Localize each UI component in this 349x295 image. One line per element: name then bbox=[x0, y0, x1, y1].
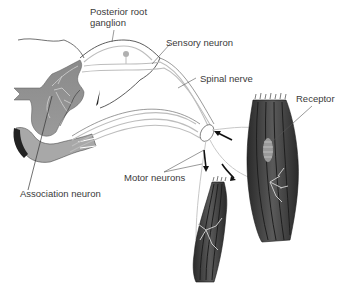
label-spinal-nerve: Spinal nerve bbox=[200, 73, 253, 84]
spinal-nerve bbox=[70, 58, 270, 240]
leader-posterior-root-ganglion bbox=[112, 30, 114, 42]
arrow-icon bbox=[222, 164, 234, 178]
ganglion-cell-body bbox=[123, 51, 129, 57]
arrow-icon bbox=[203, 166, 209, 172]
label-line: Posterior root bbox=[90, 6, 147, 17]
reflex-arc-diagram: Posterior root ganglion Sensory neuron S… bbox=[0, 0, 349, 295]
muscle-right bbox=[247, 93, 298, 242]
label-receptor: Receptor bbox=[296, 93, 335, 104]
nerve-cross-section bbox=[197, 122, 216, 144]
label-sensory-neuron: Sensory neuron bbox=[166, 37, 233, 48]
label-line: ganglion bbox=[90, 17, 147, 28]
label-posterior-root-ganglion: Posterior root ganglion bbox=[90, 6, 147, 28]
label-association-neuron: Association neuron bbox=[20, 188, 101, 199]
leader-motor-neurons-b bbox=[164, 164, 202, 172]
muscle-lower bbox=[193, 176, 227, 282]
label-motor-neurons: Motor neurons bbox=[124, 172, 185, 183]
leader-motor-neurons-a bbox=[164, 150, 204, 172]
arrow-icon bbox=[204, 150, 206, 168]
